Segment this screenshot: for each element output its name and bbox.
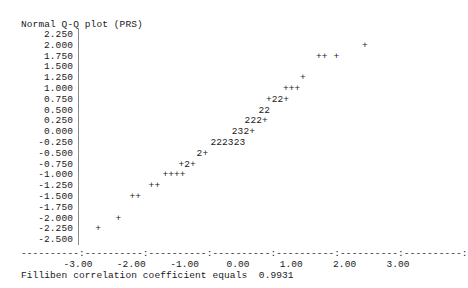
filliben-correlation-note: Filliben correlation coefficient equals …	[21, 270, 294, 281]
data-point-row: 222323	[210, 138, 245, 149]
data-point-row: +	[300, 73, 306, 84]
data-point-row: ++	[149, 181, 161, 192]
data-point-row: +22+	[266, 95, 289, 106]
x-axis-tick-label: 2.00	[333, 259, 356, 271]
data-point-row: 2+	[197, 149, 209, 160]
data-point-row: +	[362, 41, 368, 52]
x-axis-tick-label: 3.00	[386, 259, 409, 271]
data-point-layer: +++ ++++++22+22222+232+2223232++2+++++++…	[0, 30, 423, 246]
data-point-row: +	[116, 214, 122, 225]
data-point-row: +	[95, 224, 101, 235]
data-point-row: ++ +	[316, 52, 339, 63]
page-title: Normal Q-Q plot (PRS)	[21, 19, 143, 30]
data-point-row: ++	[129, 192, 141, 203]
x-axis-line: ----------:----------:----------:-------…	[21, 249, 468, 259]
data-point-row: ++++	[162, 170, 185, 181]
